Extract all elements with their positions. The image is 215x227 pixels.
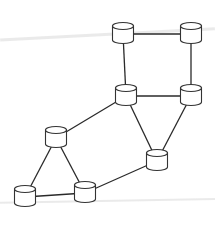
cylinder-node-icon (181, 23, 202, 44)
cylinder-node-icon (113, 23, 134, 44)
cylinder-node-icon (147, 150, 168, 171)
nodes-layer (15, 23, 202, 207)
cylinder-node-icon (181, 85, 202, 106)
edges-layer (25, 34, 191, 197)
cylinder-node-icon (75, 182, 96, 203)
network-diagram (0, 0, 215, 227)
scan-streaks (0, 27, 215, 204)
cylinder-node-icon (46, 127, 67, 148)
cylinder-node-icon (116, 85, 137, 106)
cylinder-node-icon (15, 186, 36, 207)
